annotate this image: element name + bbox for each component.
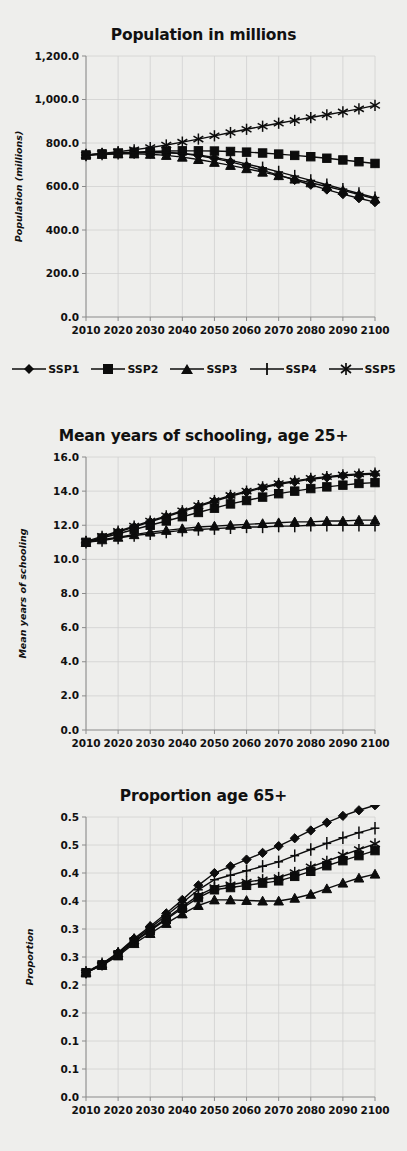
x-axis-tick-label: 2030 — [136, 324, 165, 336]
legend-label-ssp5: SSP5 — [365, 363, 396, 376]
y-axis-title: Proportion — [24, 928, 35, 985]
x-axis-tick-label: 2090 — [328, 737, 357, 749]
x-axis-tick-label: 2030 — [136, 1104, 165, 1116]
asterisk-marker-icon — [328, 362, 364, 376]
x-axis-tick-label: 2050 — [200, 324, 229, 336]
chart-panel-proportion: Proportion age 65+ 0.00.10.10.20.20.30.3… — [0, 760, 407, 1151]
legend-ssp: SSP1 SSP2 SSP3 — [0, 354, 407, 384]
y-axis-tick-label: 14.0 — [53, 485, 79, 497]
x-axis-tick-label: 2050 — [200, 1104, 229, 1116]
series-ssp4 — [82, 146, 380, 204]
page-title-population: Population in millions — [0, 0, 407, 44]
x-axis-tick-label: 2090 — [328, 324, 357, 336]
legend-label-ssp1: SSP1 — [48, 363, 79, 376]
y-axis-tick-label: 4.0 — [60, 655, 79, 667]
plot-area-proportion: 0.00.10.10.20.20.30.30.40.40.50.52010202… — [0, 805, 407, 1135]
page-title-proportion: Proportion age 65+ — [0, 760, 407, 805]
x-axis-tick-label: 2010 — [71, 737, 100, 749]
x-axis-tick-label: 2070 — [264, 1104, 293, 1116]
plot-area-schooling: 0.02.04.06.08.010.012.014.016.0201020202… — [0, 445, 407, 765]
diamond-marker-icon — [11, 362, 47, 376]
x-axis-tick-label: 2040 — [168, 324, 197, 336]
x-axis-tick-label: 2100 — [360, 737, 389, 749]
y-axis-tick-label: 800.0 — [46, 137, 79, 149]
y-axis-title: Mean years of schooling — [17, 528, 28, 658]
square-marker-icon — [90, 362, 126, 376]
x-axis-tick-label: 2080 — [296, 1104, 325, 1116]
x-axis-tick-label: 2040 — [168, 737, 197, 749]
y-axis-tick-label: 0.4 — [60, 867, 79, 879]
x-axis-tick-label: 2070 — [264, 737, 293, 749]
x-axis-tick-label: 2040 — [168, 1104, 197, 1116]
x-axis-tick-label: 2100 — [360, 1104, 389, 1116]
x-axis-tick-label: 2020 — [103, 737, 132, 749]
y-axis-tick-label: 0.1 — [60, 1035, 79, 1047]
y-axis-tick-label: 400.0 — [46, 224, 79, 236]
x-axis-tick-label: 2060 — [232, 324, 261, 336]
x-axis-tick-label: 2090 — [328, 1104, 357, 1116]
y-axis-tick-label: 0.5 — [60, 839, 79, 851]
x-axis-tick-label: 2010 — [71, 324, 100, 336]
x-axis-tick-label: 2080 — [296, 324, 325, 336]
x-axis-tick-label: 2100 — [360, 324, 389, 336]
y-axis-tick-label: 0.1 — [60, 1063, 79, 1075]
proportion-chart-svg: 0.00.10.10.20.20.30.30.40.40.50.52010202… — [0, 805, 407, 1135]
y-axis-tick-label: 0.0 — [60, 311, 79, 323]
y-axis-tick-label: 0.2 — [60, 1007, 79, 1019]
schooling-chart-svg: 0.02.04.06.08.010.012.014.016.0201020202… — [0, 445, 407, 765]
x-axis-tick-label: 2020 — [103, 324, 132, 336]
legend-label-ssp3: SSP3 — [206, 363, 237, 376]
figure-page: Population in millions 0.0200.0400.0600.… — [0, 0, 407, 1151]
y-axis-tick-label: 200.0 — [46, 267, 79, 279]
x-axis-tick-label: 2060 — [232, 737, 261, 749]
y-axis-tick-label: 0.4 — [60, 895, 79, 907]
legend-item-ssp1[interactable]: SSP1 — [11, 362, 79, 376]
y-axis-tick-label: 600.0 — [46, 180, 79, 192]
legend-item-ssp2[interactable]: SSP2 — [90, 362, 158, 376]
y-axis-tick-label: 16.0 — [53, 451, 79, 463]
y-axis-title: Population (millions) — [13, 131, 24, 243]
y-axis-tick-label: 8.0 — [60, 587, 79, 599]
x-axis-tick-label: 2060 — [232, 1104, 261, 1116]
y-axis-tick-label: 0.0 — [60, 724, 79, 736]
x-axis-tick-label: 2010 — [71, 1104, 100, 1116]
legend-item-ssp3[interactable]: SSP3 — [169, 362, 237, 376]
legend-item-ssp5[interactable]: SSP5 — [328, 362, 396, 376]
plus-marker-icon — [249, 362, 285, 376]
page-title-schooling: Mean years of schooling, age 25+ — [0, 400, 407, 445]
legend-label-ssp2: SSP2 — [127, 363, 158, 376]
legend-item-ssp4[interactable]: SSP4 — [249, 362, 317, 376]
x-axis-tick-label: 2080 — [296, 737, 325, 749]
y-axis-tick-label: 1,000.0 — [34, 93, 79, 105]
legend-label-ssp4: SSP4 — [286, 363, 317, 376]
y-axis-tick-label: 0.0 — [60, 1091, 79, 1103]
plot-area-population: 0.0200.0400.0600.0800.01,000.01,200.0201… — [0, 44, 407, 354]
y-axis-tick-label: 2.0 — [60, 689, 79, 701]
y-axis-tick-label: 6.0 — [60, 621, 79, 633]
triangle-marker-icon — [169, 362, 205, 376]
y-axis-tick-label: 12.0 — [53, 519, 79, 531]
series-ssp4 — [82, 519, 380, 548]
y-axis-tick-label: 0.3 — [60, 923, 79, 935]
x-axis-tick-label: 2020 — [103, 1104, 132, 1116]
y-axis-tick-label: 1,200.0 — [34, 50, 79, 62]
chart-panel-schooling: Mean years of schooling, age 25+ 0.02.04… — [0, 400, 407, 760]
y-axis-tick-label: 10.0 — [53, 553, 79, 565]
x-axis-tick-label: 2050 — [200, 737, 229, 749]
population-chart-svg: 0.0200.0400.0600.0800.01,000.01,200.0201… — [0, 44, 407, 354]
y-axis-tick-label: 0.2 — [60, 979, 79, 991]
x-axis-tick-label: 2030 — [136, 737, 165, 749]
x-axis-tick-label: 2070 — [264, 324, 293, 336]
y-axis-tick-label: 0.3 — [60, 951, 79, 963]
y-axis-tick-label: 0.5 — [60, 811, 79, 823]
chart-panel-population: Population in millions 0.0200.0400.0600.… — [0, 0, 407, 400]
